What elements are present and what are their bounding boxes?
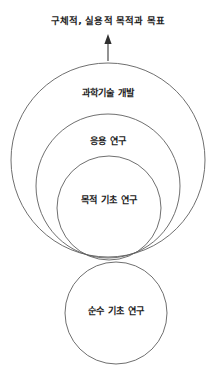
diagram-canvas — [0, 0, 217, 382]
diagram-title-label: 구체적, 실용적 목적과 목표 — [51, 16, 165, 26]
label-tech-development: 과학기술 개발 — [82, 88, 135, 98]
upward-arrow-head — [104, 34, 111, 44]
diagram-root: 구체적, 실용적 목적과 목표 과학기술 개발 응용 연구 목적 기초 연구 순… — [0, 0, 217, 382]
label-oriented-basic-research: 목적 기초 연구 — [81, 195, 137, 205]
label-pure-basic-research: 순수 기초 연구 — [88, 306, 144, 316]
label-applied-research: 응용 연구 — [90, 136, 126, 146]
circle-oriented-basic-research — [57, 156, 161, 260]
